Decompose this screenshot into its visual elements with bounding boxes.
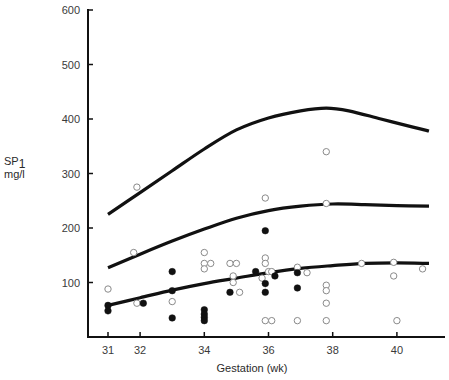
filled-circle-marker xyxy=(169,315,176,322)
open-circle-marker xyxy=(323,149,329,155)
open-circle-marker xyxy=(134,300,140,306)
filled-circle-marker xyxy=(140,300,147,307)
open-circle-marker xyxy=(390,259,396,265)
filled-circle-marker xyxy=(294,269,301,276)
filled-circle-marker xyxy=(294,285,301,292)
open-circle-marker xyxy=(201,249,207,255)
open-circle-marker xyxy=(201,266,207,272)
open-circle-marker xyxy=(233,260,239,266)
open-circle-marker xyxy=(358,260,364,266)
x-tick-label: 31 xyxy=(102,344,114,356)
filled-circle-marker xyxy=(169,268,176,275)
y-tick-label: 200 xyxy=(62,222,80,234)
open-circle-marker xyxy=(262,317,268,323)
open-circle-marker xyxy=(130,249,136,255)
y-tick-label: 300 xyxy=(62,168,80,180)
open-circle-marker xyxy=(323,287,329,293)
data-markers xyxy=(105,149,426,324)
open-circle-marker xyxy=(294,317,300,323)
open-circle-marker xyxy=(262,195,268,201)
open-circle-marker xyxy=(262,260,268,266)
open-circle-marker xyxy=(323,300,329,306)
filled-circle-marker xyxy=(252,268,259,275)
open-circle-marker xyxy=(269,317,275,323)
filled-circle-marker xyxy=(105,308,112,315)
x-tick-label: 36 xyxy=(262,344,274,356)
open-circle-marker xyxy=(230,273,236,279)
open-circle-marker xyxy=(230,279,236,285)
open-circle-marker xyxy=(208,260,214,266)
filled-circle-marker xyxy=(227,289,234,296)
filled-circle-marker xyxy=(201,317,208,324)
open-circle-marker xyxy=(227,260,233,266)
filled-circle-marker xyxy=(262,280,269,287)
filled-circle-marker xyxy=(262,289,269,296)
x-tick-label: 34 xyxy=(198,344,210,356)
open-circle-marker xyxy=(169,298,175,304)
y-axis-title-main: SP xyxy=(4,155,19,167)
open-circle-marker xyxy=(236,289,242,295)
y-tick-label: 500 xyxy=(62,59,80,71)
centile-curves xyxy=(108,108,429,305)
y-tick-label: 100 xyxy=(62,277,80,289)
open-circle-marker xyxy=(304,269,310,275)
open-circle-marker xyxy=(105,286,111,292)
y-axis-title: SP1 mg/l xyxy=(4,155,25,181)
y-tick-label: 600 xyxy=(62,4,80,16)
x-tick-label: 40 xyxy=(391,344,403,356)
open-circle-marker xyxy=(323,317,329,323)
open-circle-marker xyxy=(419,266,425,272)
open-circle-marker xyxy=(390,273,396,279)
filled-circle-marker xyxy=(272,273,279,280)
x-ticks: 313234363840 xyxy=(102,332,403,356)
x-axis-title: Gestation (wk) xyxy=(217,362,288,374)
y-axis-title-subscript: 1 xyxy=(19,157,26,171)
open-circle-marker xyxy=(394,317,400,323)
y-tick-label: 400 xyxy=(62,113,80,125)
open-circle-marker xyxy=(323,200,329,206)
open-circle-marker xyxy=(134,184,140,190)
chart-plot: 100200300400500600 313234363840 Gestatio… xyxy=(0,0,449,380)
x-tick-label: 38 xyxy=(327,344,339,356)
filled-circle-marker xyxy=(169,287,176,294)
filled-circle-marker xyxy=(262,227,269,234)
x-tick-label: 32 xyxy=(134,344,146,356)
